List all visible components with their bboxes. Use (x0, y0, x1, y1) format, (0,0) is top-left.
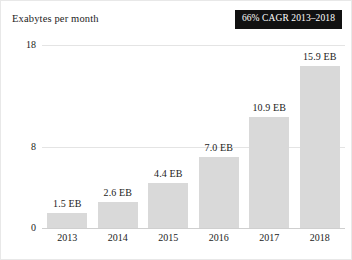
bar-2013 (47, 213, 87, 228)
plot-area: 08181.5 EB20132.6 EB20144.4 EB20157.0 EB… (1, 1, 352, 260)
bar-value-label: 4.4 EB (138, 168, 198, 179)
bar-value-label: 10.9 EB (239, 102, 299, 113)
y-axis-tick-label: 0 (10, 222, 36, 233)
bar-2017 (249, 117, 289, 228)
bar-2016 (199, 157, 239, 228)
bar-value-label: 1.5 EB (37, 198, 97, 209)
x-axis-tick-label: 2018 (290, 232, 350, 243)
gridline-0 (42, 228, 345, 229)
bar-value-label: 2.6 EB (88, 187, 148, 198)
gridline-18 (42, 45, 345, 46)
bar-value-label: 15.9 EB (290, 51, 350, 62)
y-axis-tick-label: 18 (10, 39, 36, 50)
bar-2018 (300, 66, 340, 228)
bar-value-label: 7.0 EB (189, 142, 249, 153)
bar-2014 (98, 202, 138, 228)
chart-figure: Exabytes per month 66% CAGR 2013–2018 08… (0, 0, 352, 260)
y-axis-tick-label: 8 (10, 141, 36, 152)
bar-2015 (148, 183, 188, 228)
